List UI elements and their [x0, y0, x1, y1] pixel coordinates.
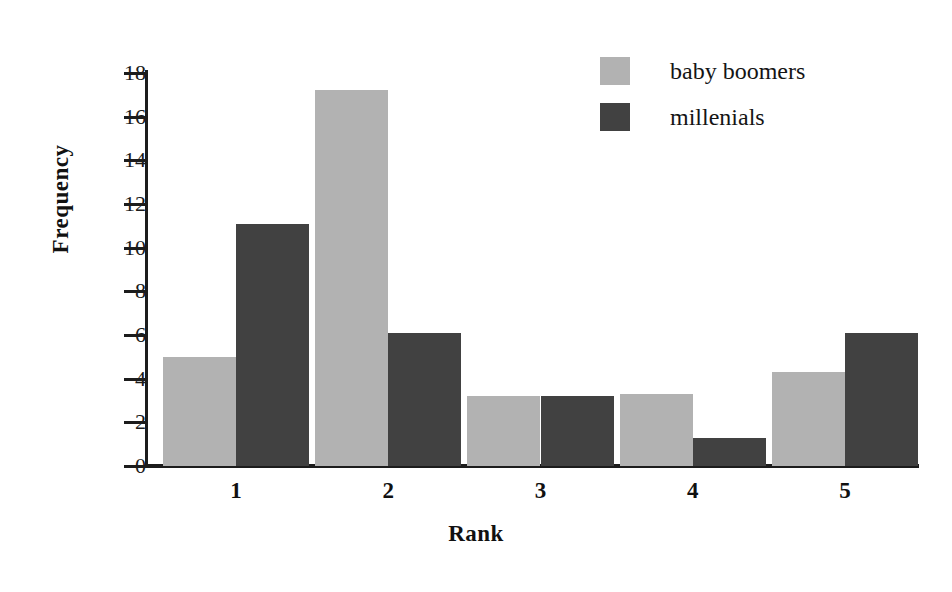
y-axis-tick-mark	[124, 116, 146, 119]
bar-millenials-rank-5	[845, 333, 918, 466]
bar-baby-boomers-rank-4	[620, 394, 693, 466]
x-axis-label-3: 3	[511, 478, 571, 504]
bar-baby-boomers-rank-1	[163, 357, 236, 466]
legend-label: baby boomers	[670, 59, 805, 83]
y-axis-tick-mark	[124, 247, 146, 250]
y-axis-tick-mark	[124, 159, 146, 162]
legend-item: baby boomers	[600, 48, 920, 94]
y-axis-tick-mark	[124, 290, 146, 293]
bar-baby-boomers-rank-3	[467, 396, 540, 466]
legend-swatch-icon	[600, 103, 630, 131]
bar-baby-boomers-rank-2	[315, 90, 388, 466]
bar-millenials-rank-4	[693, 438, 766, 466]
y-axis-tick-mark	[124, 72, 146, 75]
y-axis-tick-mark	[124, 334, 146, 337]
bar-millenials-rank-1	[236, 224, 309, 466]
y-axis-tick-mark	[124, 203, 146, 206]
legend-swatch-icon	[600, 57, 630, 85]
x-axis-title: Rank	[0, 521, 952, 547]
bar-baby-boomers-rank-5	[772, 372, 845, 466]
bar-millenials-rank-2	[388, 333, 461, 466]
y-axis-tick-mark	[124, 421, 146, 424]
x-axis-label-1: 1	[206, 478, 266, 504]
legend: baby boomersmillenials	[600, 48, 920, 140]
legend-label: millenials	[670, 105, 765, 129]
y-axis-tick-mark	[124, 465, 146, 468]
y-axis-tick-mark	[124, 378, 146, 381]
y-axis-title: Frequency	[48, 119, 74, 279]
x-axis-label-5: 5	[815, 478, 875, 504]
x-axis-label-4: 4	[663, 478, 723, 504]
x-axis-label-2: 2	[358, 478, 418, 504]
bar-chart: 024681012141618 12345 Frequency Rank bab…	[0, 0, 952, 592]
legend-item: millenials	[600, 94, 920, 140]
bar-millenials-rank-3	[541, 396, 614, 466]
